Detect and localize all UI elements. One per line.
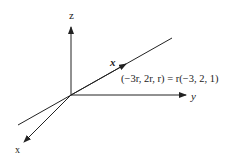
direction-vector [71,64,126,95]
3d-axes-diagram: z y x x (−3r, 2r, r) = r(−3, 2, 1) [0,0,245,163]
vector-label: x [109,56,116,68]
x-axis-label: x [15,144,20,155]
z-axis-label: z [69,9,74,21]
line-equation: (−3r, 2r, r) = r(−3, 2, 1) [121,73,219,85]
x-axis [24,95,71,142]
y-axis-label: y [190,90,196,102]
